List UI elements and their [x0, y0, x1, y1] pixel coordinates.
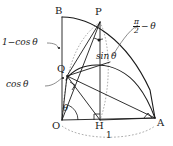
dotted-arc-p-to-h [100, 22, 108, 120]
fraction-denominator: 2 [133, 26, 140, 35]
point-label-H: H [95, 121, 104, 131]
label-theta-at-O: θ [63, 104, 68, 113]
label-cos-theta: cos θ [6, 80, 28, 89]
segment-Q-aux [67, 62, 110, 76]
leader-dot-one-minus-cos [58, 47, 60, 49]
point-label-A: A [157, 118, 164, 128]
segment-QA [67, 76, 155, 118]
fraction-numerator: π [133, 18, 140, 26]
segment-PQ [67, 22, 100, 76]
minus-theta-text: − θ [141, 22, 156, 31]
label-pi-over-two-minus-theta: π 2 − θ [133, 11, 156, 35]
point-label-Q: Q [57, 64, 65, 74]
point-label-O: O [52, 121, 60, 131]
segment-QH [67, 76, 100, 120]
leader-dot-cos [62, 77, 64, 79]
label-unit-length: 1 [106, 131, 112, 140]
leader-cos [45, 78, 62, 86]
label-one-minus-cos-theta: 1−cos θ [2, 38, 38, 47]
diagram-canvas: B P Q O H A 1−cos θ cos θ sin θ θ 1 π 2 … [0, 0, 173, 146]
angle-arc-theta-at-O [68, 105, 78, 120]
angle-dot-at-P [98, 39, 101, 42]
fraction-pi-over-two: π 2 [133, 18, 140, 35]
leader-one-minus-cos [47, 43, 58, 48]
point-label-P: P [95, 7, 102, 17]
label-sin-theta: sin θ [96, 52, 117, 61]
point-label-B: B [55, 6, 62, 16]
